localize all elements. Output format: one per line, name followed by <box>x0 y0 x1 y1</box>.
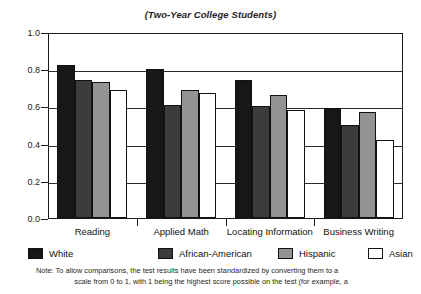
bar <box>146 69 164 218</box>
y-axis-tick-mark <box>41 107 48 108</box>
x-axis-category-label: Business Writing <box>323 226 394 237</box>
bar <box>235 80 253 218</box>
bar <box>164 105 182 218</box>
x-axis-tick-mark <box>314 219 315 226</box>
x-axis-tick-mark <box>226 219 227 226</box>
y-axis-tick-label: 0.2 <box>6 177 40 187</box>
x-axis-category-label: Applied Math <box>153 226 208 237</box>
legend-swatch-icon <box>28 248 43 259</box>
chart-legend: WhiteAfrican-AmericanHispanicAsian <box>28 246 408 262</box>
bar <box>110 90 128 218</box>
y-axis-tick-mark <box>41 70 48 71</box>
y-axis-tick-label: 0.4 <box>6 140 40 150</box>
bar <box>324 108 342 218</box>
bar-group <box>315 34 404 218</box>
legend-label: African-American <box>179 248 252 259</box>
bar <box>92 82 110 218</box>
x-axis-tick-mark <box>137 219 138 226</box>
bar <box>341 125 359 218</box>
bar <box>376 140 394 218</box>
bar-group <box>227 34 316 218</box>
bar <box>199 93 217 218</box>
legend-label: White <box>49 248 73 259</box>
bar <box>252 106 270 218</box>
legend-swatch-icon <box>158 248 173 259</box>
footnote-line-2: scale from 0 to 1, with 1 being the high… <box>36 277 386 288</box>
y-axis-tick-mark <box>41 145 48 146</box>
legend-item[interactable]: Hispanic <box>278 246 335 260</box>
y-axis-tick-mark <box>41 182 48 183</box>
legend-item[interactable]: Asian <box>368 246 413 260</box>
x-axis-category-label: Reading <box>75 226 110 237</box>
legend-label: Hispanic <box>299 248 335 259</box>
footnote-line-1: Note: To allow comparisons, the test res… <box>36 266 386 277</box>
chart-title: (Two-Year College Students) <box>0 9 421 20</box>
bar <box>287 110 305 218</box>
legend-swatch-icon <box>278 248 293 259</box>
bar <box>57 65 75 218</box>
y-axis-tick-label: 0.8 <box>6 65 40 75</box>
bar <box>359 112 377 218</box>
plot-area <box>48 33 403 219</box>
y-axis-tick-label: 1.0 <box>6 28 40 38</box>
bar-group <box>49 34 138 218</box>
y-axis-tick-label: 0.0 <box>6 214 40 224</box>
bar <box>181 90 199 218</box>
bar <box>75 80 93 218</box>
x-axis-category-label: Locating Information <box>227 226 313 237</box>
y-axis-tick-mark <box>41 33 48 34</box>
bar-chart-figure: (Two-Year College Students) 0.00.20.40.6… <box>0 0 421 294</box>
legend-label: Asian <box>389 248 413 259</box>
bar <box>270 95 288 218</box>
legend-item[interactable]: White <box>28 246 73 260</box>
y-axis-tick-label: 0.6 <box>6 102 40 112</box>
y-axis-tick-mark <box>41 219 48 220</box>
bar-group <box>138 34 227 218</box>
legend-swatch-icon <box>368 248 383 259</box>
chart-footnote: Note: To allow comparisons, the test res… <box>36 266 386 287</box>
legend-item[interactable]: African-American <box>158 246 252 260</box>
